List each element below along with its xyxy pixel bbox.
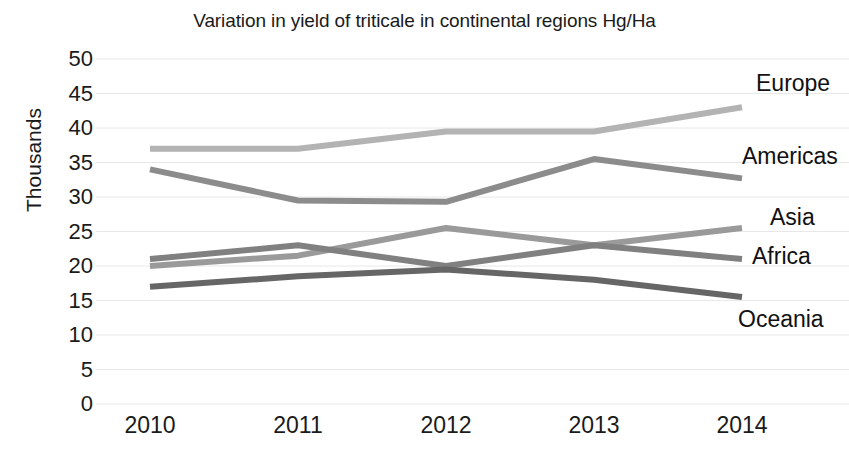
series-line-asia xyxy=(150,228,742,266)
x-axis-tick-label: 2014 xyxy=(682,414,802,437)
series-label-europe: Europe xyxy=(756,72,830,95)
series-label-americas: Americas xyxy=(742,145,838,168)
series-label-africa: Africa xyxy=(752,245,811,268)
x-axis-tick-label: 2010 xyxy=(90,414,210,437)
series-label-asia: Asia xyxy=(770,206,815,229)
series-line-africa xyxy=(150,245,742,266)
series-label-oceania: Oceania xyxy=(738,308,824,331)
series-line-oceania xyxy=(150,269,742,297)
x-axis-tick-label: 2012 xyxy=(386,414,506,437)
x-axis-tick-label: 2013 xyxy=(534,414,654,437)
plot-area xyxy=(0,0,849,468)
series-lines xyxy=(150,107,742,297)
line-chart: Variation in yield of triticale in conti… xyxy=(0,0,849,468)
x-axis-tick-label: 2011 xyxy=(238,414,358,437)
series-line-americas xyxy=(150,159,742,202)
